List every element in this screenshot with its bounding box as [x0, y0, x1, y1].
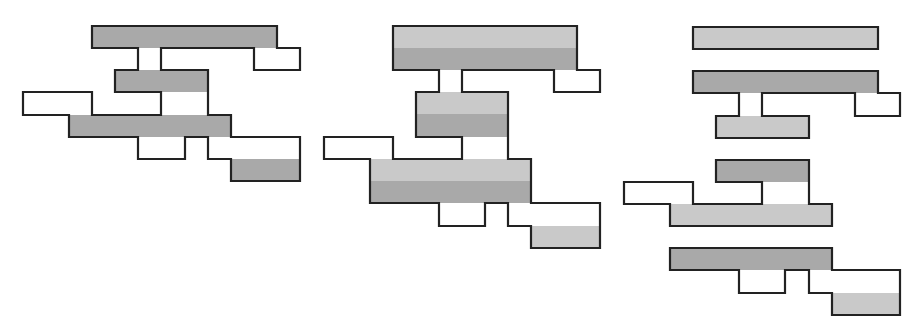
figure-right-shaded-cell: [670, 248, 832, 270]
figure-middle-shaded-cell: [393, 26, 577, 48]
figure-right-shaded-cell: [693, 27, 878, 49]
figure-right-shaded-cell: [693, 71, 878, 93]
figure-middle: [324, 26, 600, 248]
figure-right-shaded-cell: [716, 116, 809, 138]
figure-left-shaded-cell: [69, 115, 231, 137]
figure-right: [624, 27, 900, 315]
figure-middle-shaded-cell: [416, 114, 508, 137]
diagram-canvas: [0, 0, 924, 335]
figure-left-outline: [23, 26, 300, 181]
figure-left-shaded-cell: [115, 70, 208, 92]
figure-right-shaded-cell: [716, 160, 809, 182]
figure-middle-shaded-cell: [393, 48, 577, 70]
figure-left-outline-path: [23, 26, 300, 181]
figure-middle-shaded-cell: [370, 181, 531, 203]
figure-middle-shaded-cell: [531, 226, 600, 248]
figure-middle-shaded-cell: [416, 92, 508, 114]
figure-right-shaded-cell: [832, 293, 900, 315]
figure-left-shaded-cell: [92, 26, 277, 48]
figure-left: [23, 26, 300, 181]
figure-middle-shaded-cell: [370, 159, 531, 181]
figure-left-shaded-cell: [231, 159, 300, 181]
figure-right-shaded-cell: [670, 204, 832, 226]
